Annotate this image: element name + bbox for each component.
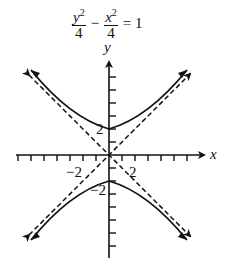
arrow-upper-right — [178, 70, 187, 78]
x-axis-label: x — [209, 146, 217, 162]
x-axis-ticks — [18, 155, 187, 161]
x-tick-label-neg2: −2 — [66, 164, 82, 180]
arrow-upper-left — [31, 70, 40, 78]
arrow-lower-right — [178, 232, 187, 240]
y-axis-label: y — [102, 39, 111, 55]
y-tick-label-2: 2 — [96, 121, 104, 137]
y-tick-label-neg2: −2 — [90, 182, 106, 198]
graph: y x 2 −2 −2 2 — [0, 0, 230, 264]
arrow-lower-left — [31, 232, 40, 240]
x-tick-label-2: 2 — [129, 164, 137, 180]
